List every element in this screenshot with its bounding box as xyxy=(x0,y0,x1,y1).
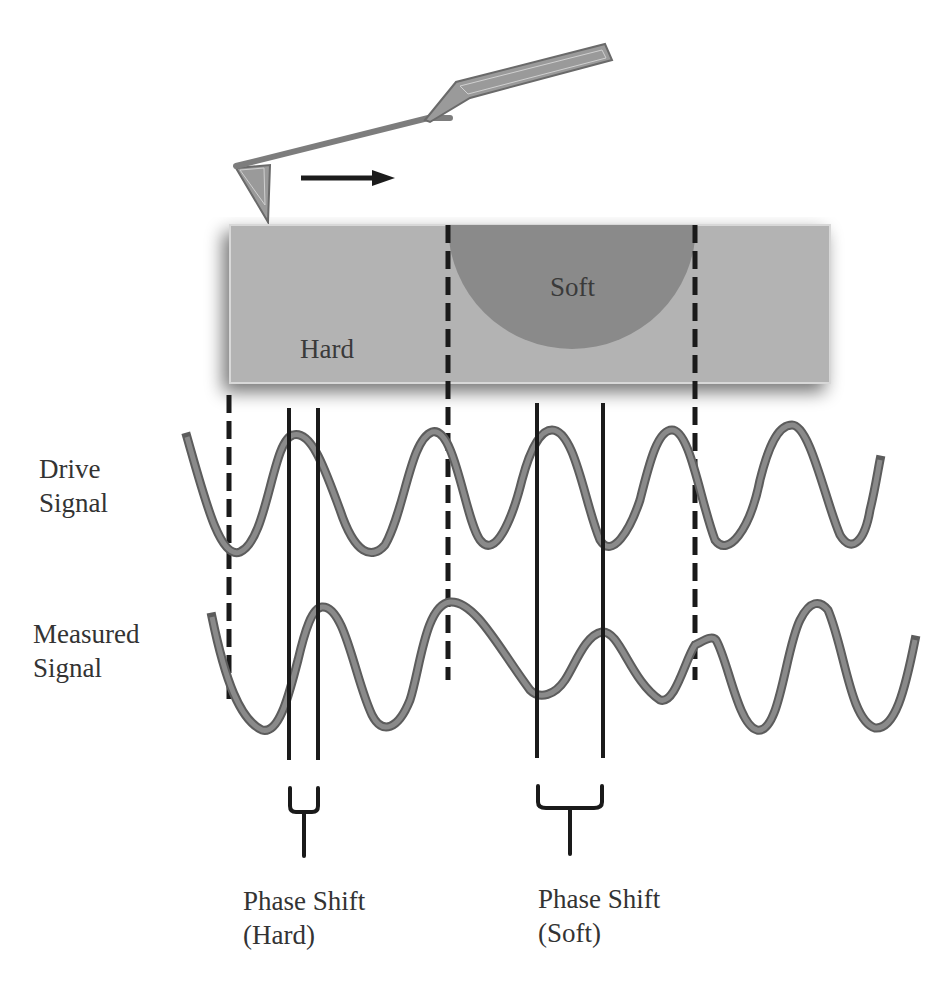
phase-shift-soft-line2: (Soft) xyxy=(538,916,660,950)
phase-shift-soft-line1: Phase Shift xyxy=(538,882,660,916)
phase-shift-hard-bracket-icon xyxy=(290,788,318,856)
phase-shift-hard-line1: Phase Shift xyxy=(243,884,365,918)
afm-phase-diagram: Hard Soft xyxy=(0,0,950,988)
measured-signal-label-line2: Signal xyxy=(33,651,139,685)
drive-signal-label-line1: Drive xyxy=(39,452,108,486)
soft-region-label: Soft xyxy=(550,272,596,302)
drive-signal-label: Drive Signal xyxy=(39,452,108,520)
phase-reference-lines xyxy=(289,403,603,760)
phase-shift-soft-bracket-icon xyxy=(538,786,602,854)
hard-region-label: Hard xyxy=(300,334,354,364)
drive-signal-label-line2: Signal xyxy=(39,486,108,520)
phase-shift-hard-line2: (Hard) xyxy=(243,918,365,952)
phase-shift-hard-label: Phase Shift (Hard) xyxy=(243,884,365,952)
cantilever-icon xyxy=(236,44,612,222)
measured-signal-label: Measured Signal xyxy=(33,617,139,685)
phase-shift-soft-label: Phase Shift (Soft) xyxy=(538,882,660,950)
soft-region xyxy=(448,101,696,349)
measured-signal-label-line1: Measured xyxy=(33,617,139,651)
scan-direction-arrow-icon xyxy=(301,170,395,186)
